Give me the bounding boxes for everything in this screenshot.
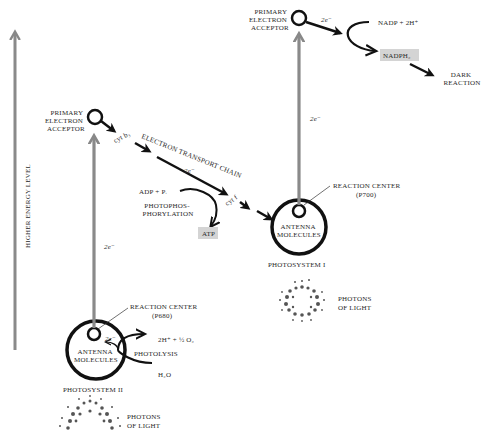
nadp-reduction: 2e⁻ NADP + 2H⁺ NADPH₂ DARK REACTION (306, 16, 481, 87)
ps2-reaction-center-label: REACTION CENTER (P680) (130, 303, 199, 320)
electron-transport-chain: cyt b₃ ELECTRON TRANSPORT CHAIN 2e⁻ cyt … (101, 121, 271, 239)
etc-carrier-cyt-f: cyt f (224, 193, 240, 208)
ps2-reaction-center-circle (88, 328, 100, 340)
z-scheme-diagram: HIGHER ENERGY LEVEL ANTENNA MOLECULES PH… (0, 0, 483, 434)
ps1-photons-icon (279, 279, 325, 322)
photolysis-output: 2H⁺ + ½ O₂ (158, 336, 195, 344)
nadp-electron-label: 2e⁻ (321, 16, 332, 24)
nadp-input: NADP + 2H⁺ (378, 19, 419, 27)
photophosphorylation-label: PHOTOPHOS- PHORYLATION (143, 202, 194, 218)
dark-reaction-arrow (410, 64, 432, 75)
photolysis-label: PHOTOLYSIS (134, 350, 178, 358)
ps1-primary-acceptor-label: PRIMARY ELECTRON ACCEPTOR (249, 8, 289, 32)
photosystem-i: ANTENNA MOLECULES PHOTOSYSTEM I REACTION… (249, 8, 402, 322)
photolysis-electron-label: 2e⁻ (105, 335, 116, 343)
etc-arrow-5 (257, 211, 271, 219)
ps1-rc-leader (304, 186, 330, 205)
nadph-output: NADPH₂ (383, 52, 411, 60)
ps2-photons-icon (59, 395, 121, 430)
ps1-photons-label: PHOTONS OF LIGHT (338, 295, 374, 312)
ps1-name: PHOTOSYSTEM I (268, 261, 326, 269)
dark-reaction-label: DARK REACTION (444, 71, 481, 87)
etc-electron-label: 2e⁻ (184, 167, 195, 175)
etc-arrow-1 (101, 121, 114, 131)
ps2-primary-acceptor (88, 110, 102, 124)
energy-axis: HIGHER ENERGY LEVEL (15, 34, 32, 350)
ps1-primary-acceptor (292, 11, 306, 25)
ps2-primary-acceptor-label: PRIMARY ELECTRON ACCEPTOR (45, 109, 85, 133)
ps1-electron-label: 2e⁻ (310, 115, 321, 123)
nadp-reduction-arrow (348, 22, 375, 51)
ps2-antenna-label: ANTENNA MOLECULES (74, 348, 118, 364)
energy-axis-label: HIGHER ENERGY LEVEL (24, 164, 32, 248)
etc-arrow-2 (135, 143, 149, 151)
adp-input: ADP + Pᵢ (139, 188, 167, 196)
ps2-name: PHOTOSYSTEM II (63, 386, 124, 394)
ps2-photons-label: PHOTONS OF LIGHT (127, 413, 163, 430)
photosystem-ii: ANTENNA MOLECULES PHOTOSYSTEM II REACTIO… (45, 109, 199, 430)
ps1-reaction-center-circle (293, 205, 305, 217)
atp-output: ATP (202, 230, 215, 238)
etc-carrier-cyt-b: cyt b₃ (112, 130, 131, 145)
etc-arrow-4 (240, 202, 248, 208)
ps2-electron-label: 2e⁻ (104, 243, 115, 251)
photolysis-input: H₂O (158, 371, 171, 379)
ps1-reaction-center-label: REACTION CENTER (P700) (333, 182, 402, 199)
ps1-antenna-label: ANTENNA MOLECULES (277, 223, 321, 239)
